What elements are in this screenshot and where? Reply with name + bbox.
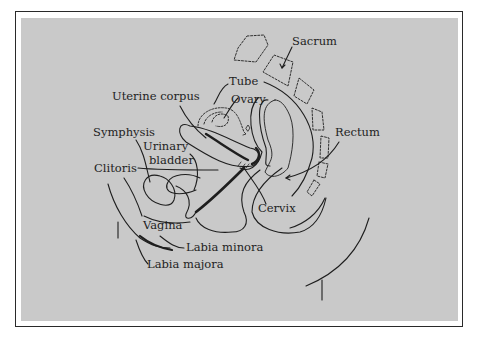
label-rectum: Rectum	[335, 127, 380, 139]
label-cervix: Cervix	[258, 203, 296, 215]
sacrum-vertebrae	[234, 35, 329, 196]
label-labia-minora: Labia minora	[186, 242, 263, 254]
label-ovary: Ovary	[231, 94, 266, 106]
label-labia-majora: Labia majora	[147, 259, 224, 271]
label-tube: Tube	[229, 76, 258, 88]
anatomy-drawing	[0, 0, 477, 340]
label-vagina: Vagina	[143, 220, 182, 232]
label-clitoris: Clitoris	[94, 163, 137, 175]
label-bladder: bladder	[149, 155, 194, 167]
label-symphysis: Symphysis	[93, 127, 155, 139]
label-uterine-corpus: Uterine corpus	[112, 91, 200, 103]
label-sacrum: Sacrum	[292, 36, 337, 48]
label-urinary: Urinary	[143, 141, 188, 153]
